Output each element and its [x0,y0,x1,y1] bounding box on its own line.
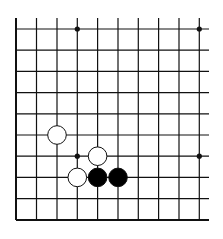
white-stone[interactable] [48,126,67,145]
white-stone[interactable] [68,168,87,187]
star-point [75,26,80,31]
star-point [197,26,202,31]
black-stone[interactable] [109,168,128,187]
black-stone[interactable] [88,168,107,187]
star-point [75,154,80,159]
go-board [0,0,223,239]
white-stone[interactable] [88,147,107,166]
star-point [197,154,202,159]
